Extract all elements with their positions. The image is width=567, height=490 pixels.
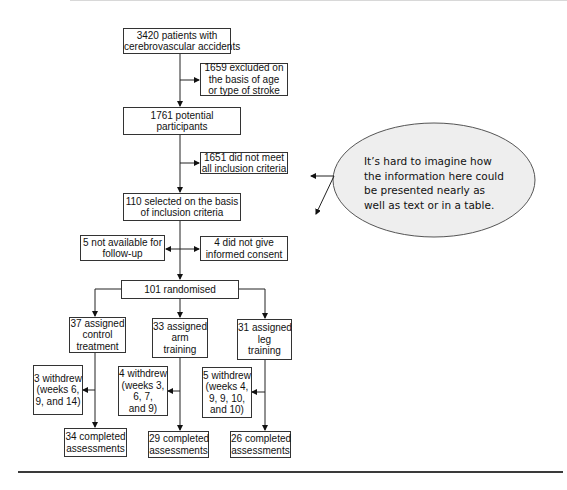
leg-completed-line-1: 26 completed [231,433,290,445]
bottom-rule [18,471,563,473]
control-completed-line-1: 34 completed [65,431,126,443]
potential-line-2: participants [124,121,240,133]
selected-box: 110 selected on the basis of inclusion c… [123,193,241,221]
arm-withdrew-box: 4 withdrew (weeks 3, 6, 7, and 9) [118,366,168,416]
arm-withdrew-line-4: and 9) [119,403,167,415]
screening-box: 3420 patients with cerebrovascular accid… [123,28,231,54]
control-completed-box: 34 completed assessments [64,428,127,457]
potential-line-1: 1761 potential [124,110,240,122]
control-withdrew-box: 3 withdrew (weeks 6, 9, and 14) [33,365,83,415]
callout-line-1: It’s hard to imagine how [364,154,514,169]
selected-line-2: of inclusion criteria [124,207,240,219]
arm-assigned-box: 33 assigned arm training [152,318,208,358]
not-available-line-2: follow-up [81,248,164,260]
control-assigned-line-1: 37 assigned [70,318,125,330]
leg-assigned-line-2: leg [238,334,291,346]
excluded-line-2: the basis of age [201,74,287,86]
leg-completed-line-2: assessments [231,445,290,457]
leg-completed-box: 26 completed assessments [230,431,291,458]
randomised-label: 101 randomised [122,284,238,296]
arm-withdrew-line-1: 4 withdrew [119,368,167,380]
randomised-box: 101 randomised [121,280,239,299]
not-meet-line-2: all inclusion criteria [201,163,287,175]
callout-line-4: well as text or in a table. [364,198,514,213]
arm-assigned-line-3: training [153,344,207,356]
callout-text: It’s hard to imagine how the information… [364,154,514,212]
leg-withdrew-line-4: and 10) [203,404,251,416]
not-meet-criteria-box: 1651 did not meet all inclusion criteria [200,152,288,174]
no-consent-box: 4 did not give informed consent [200,236,288,261]
control-withdrew-line-1: 3 withdrew [34,373,82,385]
callout-line-2: the information here could [364,169,514,184]
arm-assigned-line-2: arm [153,332,207,344]
control-assigned-line-2: control [70,329,125,341]
control-completed-line-2: assessments [65,443,126,455]
leg-withdrew-line-1: 5 withdrew [203,370,251,382]
leg-withdrew-line-2: (weeks 4, [203,381,251,393]
potential-participants-box: 1761 potential participants [123,107,241,135]
leg-assigned-line-1: 31 assigned [238,322,291,334]
no-consent-line-2: informed consent [201,249,287,261]
not-available-box: 5 not available for follow-up [80,235,165,261]
leg-assigned-box: 31 assigned leg training [237,319,292,360]
arm-completed-line-1: 29 completed [149,433,208,445]
selected-line-1: 110 selected on the basis [124,196,240,208]
not-meet-line-1: 1651 did not meet [201,152,287,164]
callout-line-3: be presented nearly as [364,183,514,198]
leg-withdrew-line-3: 9, 9, 10, [203,393,251,405]
excluded-line-1: 1659 excluded on [201,62,287,74]
control-withdrew-line-3: 9, and 14) [34,396,82,408]
arm-withdrew-line-3: 6, 7, [119,391,167,403]
arm-completed-box: 29 completed assessments [148,431,209,458]
control-assigned-box: 37 assigned control treatment [69,317,126,353]
no-consent-line-1: 4 did not give [201,237,287,249]
screening-line-1: 3420 patients with [124,30,230,42]
screening-line-2: cerebrovascular accidents [124,41,230,53]
leg-assigned-line-3: training [238,345,291,357]
control-assigned-line-3: treatment [70,341,125,353]
excluded-age-stroke-box: 1659 excluded on the basis of age or typ… [200,63,288,96]
excluded-line-3: or type of stroke [201,85,287,97]
not-available-line-1: 5 not available for [81,237,164,249]
arm-assigned-line-1: 33 assigned [153,321,207,333]
arm-withdrew-line-2: (weeks 3, [119,380,167,392]
leg-withdrew-box: 5 withdrew (weeks 4, 9, 9, 10, and 10) [202,367,252,418]
arm-completed-line-2: assessments [149,445,208,457]
control-withdrew-line-2: (weeks 6, [34,384,82,396]
